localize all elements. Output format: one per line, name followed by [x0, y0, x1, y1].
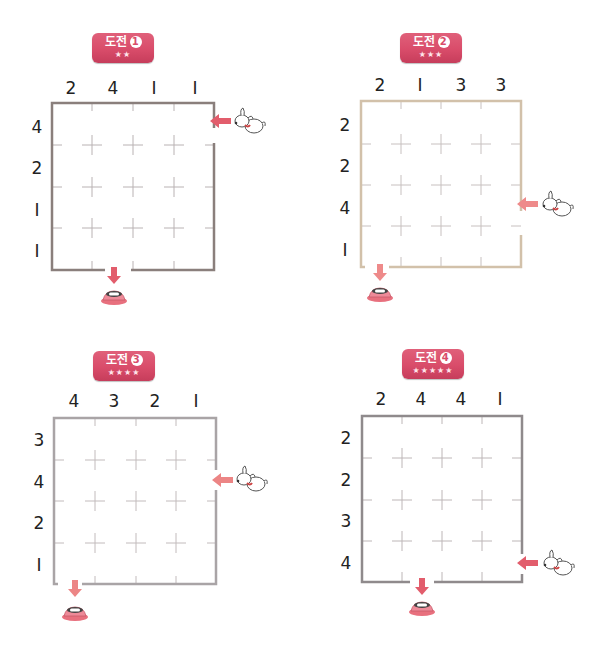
challenge-badge-3: 도전3 ★★★★	[93, 351, 155, 381]
column-clue: 4	[64, 391, 84, 411]
column-clue: 3	[491, 75, 511, 95]
exit-arrow-icon	[414, 578, 430, 596]
column-clue: I	[144, 78, 164, 98]
row-clue: 2	[335, 115, 355, 135]
row-clue: 2	[29, 513, 49, 533]
row-clue: I	[29, 555, 49, 575]
challenge-badge-2: 도전2 ★★★	[400, 33, 462, 63]
maze-grid[interactable]	[50, 101, 218, 273]
row-clue: 2	[336, 428, 356, 448]
row-clue: 4	[27, 117, 47, 137]
badge-number: 2	[438, 36, 450, 48]
row-clue: 2	[27, 158, 47, 178]
row-clue: 3	[29, 430, 49, 450]
column-clue: 4	[103, 78, 123, 98]
row-clue: 4	[336, 553, 356, 573]
row-clue: I	[27, 200, 47, 220]
dog-bowl-icon	[408, 598, 436, 616]
dog-bowl-icon	[366, 284, 394, 302]
exit-arrow-icon	[372, 264, 388, 282]
puppy-icon	[234, 464, 268, 496]
column-clue: 2	[370, 75, 390, 95]
row-clue: I	[335, 240, 355, 260]
entry-arrow-icon	[517, 196, 539, 212]
column-clue: 4	[451, 389, 471, 409]
badge-label: 도전	[106, 353, 129, 367]
badge-number: 3	[131, 354, 143, 366]
column-clue: 2	[61, 78, 81, 98]
entry-arrow-icon	[212, 472, 234, 488]
column-clue: 3	[104, 391, 124, 411]
row-clue: 4	[335, 198, 355, 218]
difficulty-stars: ★★	[92, 50, 154, 59]
challenge-badge-1: 도전1 ★★	[92, 33, 154, 63]
row-clue: 2	[335, 156, 355, 176]
exit-arrow-icon	[106, 267, 122, 285]
column-clue: 4	[411, 389, 431, 409]
column-clue: I	[185, 78, 205, 98]
row-clue: 2	[336, 470, 356, 490]
dog-bowl-icon	[61, 603, 89, 621]
puppy-icon	[232, 106, 266, 138]
difficulty-stars: ★★★	[400, 50, 462, 59]
badge-number: 1	[130, 36, 142, 48]
puppy-icon	[540, 189, 574, 221]
column-clue: I	[410, 75, 430, 95]
badge-label: 도전	[413, 35, 436, 49]
challenge-badge-4: 도전4 ★★★★★	[402, 349, 464, 379]
column-clue: I	[186, 391, 206, 411]
row-clue: 4	[29, 472, 49, 492]
badge-number: 4	[440, 352, 452, 364]
difficulty-stars: ★★★★★	[402, 366, 464, 375]
row-clue: 3	[336, 511, 356, 531]
dog-bowl-icon	[100, 287, 128, 305]
puppy-icon	[541, 548, 575, 580]
maze-grid[interactable]	[359, 99, 525, 271]
column-clue: I	[490, 389, 510, 409]
maze-grid[interactable]	[52, 416, 220, 588]
badge-label: 도전	[105, 35, 128, 49]
difficulty-stars: ★★★★	[93, 368, 155, 377]
exit-arrow-icon	[67, 580, 83, 598]
entry-arrow-icon	[210, 113, 232, 129]
column-clue: 2	[371, 389, 391, 409]
row-clue: I	[27, 241, 47, 261]
column-clue: 2	[145, 391, 165, 411]
entry-arrow-icon	[517, 555, 539, 571]
maze-grid[interactable]	[360, 414, 526, 586]
column-clue: 3	[451, 75, 471, 95]
badge-label: 도전	[415, 351, 438, 365]
